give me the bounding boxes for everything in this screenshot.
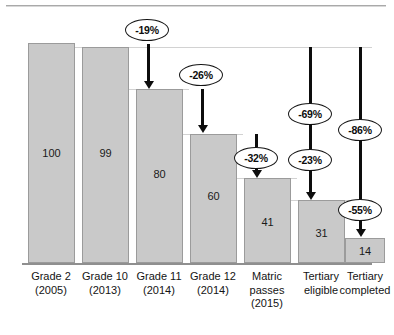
arrow-head-drop-23	[306, 192, 316, 200]
x-axis-label-matric-passes-line3: (2015)	[236, 297, 298, 311]
x-axis-baseline	[22, 263, 372, 265]
x-axis-label-matric-passes-line1: Matric	[236, 270, 298, 284]
x-axis-label-tertiary-completed-line2: completed	[332, 284, 394, 298]
bar-value-grade-12: 60	[190, 190, 237, 202]
arrow-shaft-drop-23	[309, 170, 312, 194]
funnel-bar-chart: 100 99 80 60 41 31 14 -19% -26% -32% -69…	[0, 0, 394, 335]
callout-drop-69: -69%	[288, 103, 332, 125]
bar-value-grade-2: 100	[28, 147, 75, 159]
bar-value-grade-11: 80	[136, 168, 183, 180]
x-axis-label-tertiary-completed: Tertiary completed	[332, 270, 394, 297]
arrow-shaft-drop-86-mid	[359, 140, 362, 200]
x-axis-label-matric-passes-line2: passes	[236, 284, 298, 298]
callout-drop-19: -19%	[125, 19, 169, 41]
bar-value-matric-passes: 41	[244, 216, 291, 228]
bar-value-grade-10: 99	[82, 147, 129, 159]
arrow-head-drop-19	[144, 81, 154, 89]
arrow-shaft-drop-32-upper	[255, 134, 258, 147]
arrow-head-drop-55	[356, 229, 366, 237]
arrow-shaft-drop-86	[359, 47, 362, 125]
arrow-shaft-drop-69-mid	[309, 124, 312, 151]
callout-drop-32: -32%	[234, 147, 278, 169]
arrow-head-drop-32	[252, 170, 262, 178]
x-axis-label-tertiary-completed-line1: Tertiary	[332, 270, 394, 284]
x-axis-label-matric-passes: Matric passes (2015)	[236, 270, 298, 311]
arrow-shaft-drop-19	[147, 44, 150, 83]
callout-drop-86: -86%	[338, 119, 382, 141]
callout-drop-26: -26%	[179, 64, 223, 86]
plot-area: 100 99 80 60 41 31 14 -19% -26% -32% -69…	[0, 0, 394, 335]
bar-value-tertiary-completed: 14	[345, 245, 385, 257]
callout-drop-23: -23%	[288, 149, 332, 171]
bar-value-tertiary-eligible: 31	[298, 227, 345, 239]
callout-drop-55: -55%	[338, 199, 382, 221]
arrow-head-drop-26	[198, 125, 208, 133]
arrow-shaft-drop-26	[201, 89, 204, 127]
